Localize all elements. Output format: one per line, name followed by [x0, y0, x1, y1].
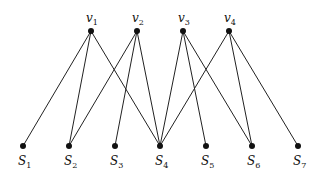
node-label-S7: S7: [293, 154, 306, 170]
edge-v4-S4: [160, 31, 229, 146]
node-v4: [226, 28, 232, 34]
edges-layer: [23, 31, 298, 146]
node-S1: [20, 143, 26, 149]
edge-v3-S6: [183, 31, 252, 146]
edge-v3-S4: [160, 31, 183, 146]
node-S7: [295, 143, 301, 149]
node-v1: [88, 28, 94, 34]
node-v2: [134, 28, 140, 34]
edge-v4-S6: [229, 31, 252, 146]
node-label-S4: S4: [155, 154, 168, 170]
graph-svg: v1v2v3v4S1S2S3S4S5S6S7: [0, 0, 319, 179]
node-label-S2: S2: [64, 154, 77, 170]
node-label-v4: v4: [224, 11, 236, 27]
node-S5: [203, 143, 209, 149]
bipartite-graph-diagram: v1v2v3v4S1S2S3S4S5S6S7: [0, 0, 319, 179]
edge-v4-S7: [229, 31, 298, 146]
edge-v1-S2: [69, 31, 91, 146]
node-label-S6: S6: [247, 154, 260, 170]
node-label-S1: S1: [18, 154, 31, 170]
node-label-S5: S5: [201, 154, 214, 170]
node-S2: [66, 143, 72, 149]
nodes-layer: [20, 28, 301, 149]
node-S3: [112, 143, 118, 149]
node-label-v3: v3: [178, 11, 190, 27]
edge-v2-S3: [115, 31, 137, 146]
node-S6: [249, 143, 255, 149]
node-S4: [157, 143, 163, 149]
edge-v2-S4: [137, 31, 160, 146]
node-v3: [180, 28, 186, 34]
node-label-S3: S3: [110, 154, 123, 170]
edge-v2-S2: [69, 31, 137, 146]
node-label-v2: v2: [132, 11, 144, 27]
node-label-v1: v1: [86, 11, 98, 27]
edge-v1-S1: [23, 31, 91, 146]
